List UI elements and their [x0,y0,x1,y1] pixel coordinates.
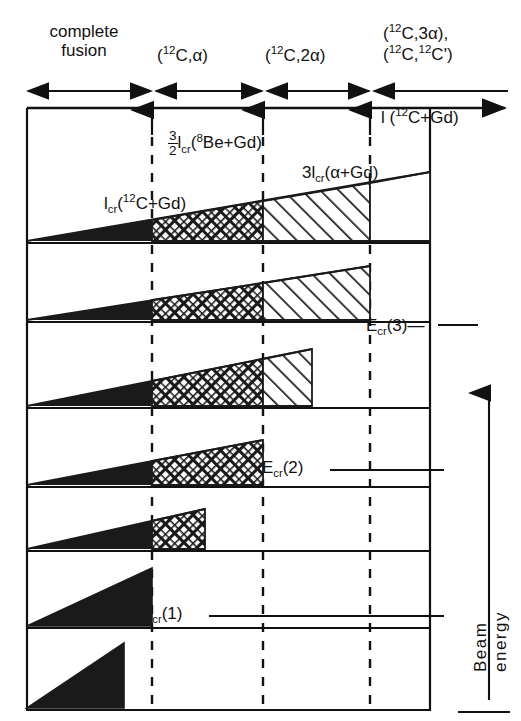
segment-c12-alpha-5 [152,359,263,406]
segment-c12-alpha-4 [152,440,263,485]
segment-c12-alpha-6 [152,283,263,320]
figure-canvas [0,0,521,721]
segment-complete-fusion-1 [27,643,124,708]
panel-row-4 [27,440,263,485]
panel-row-5 [27,349,312,406]
panel-row-7 [27,172,430,241]
segment-c12-3alpha-7 [370,172,430,241]
panel-row-1 [27,643,124,708]
panel-row-6 [27,266,370,320]
l-axis-ticks [152,110,370,135]
segment-c12-alpha-7 [152,201,263,241]
panel-row-3 [27,509,205,549]
panel-row-2 [27,568,152,626]
segment-complete-fusion-2 [27,568,152,626]
